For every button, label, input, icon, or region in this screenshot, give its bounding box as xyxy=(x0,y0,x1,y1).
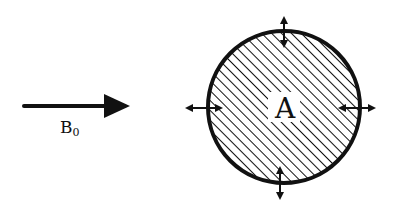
field-arrow-icon xyxy=(24,94,130,118)
field-subscript: 0 xyxy=(73,126,80,139)
field-label: B0 xyxy=(60,117,80,139)
diagram-canvas: B0 A xyxy=(0,0,401,212)
region-label: A xyxy=(270,92,300,125)
